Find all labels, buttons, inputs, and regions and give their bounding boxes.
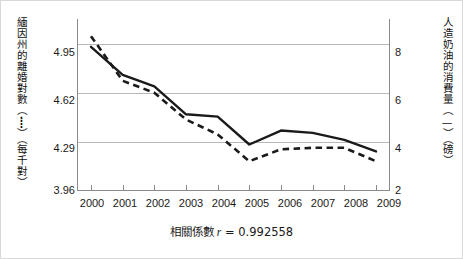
right-axis-title: 人造奶油的消費量（—）（磅） <box>441 17 453 237</box>
x-tick-2000: 2000 <box>80 197 104 209</box>
x-tick-2006: 2006 <box>278 197 302 209</box>
correlation-caption: 相關係數r = 0.992558 <box>1 223 462 239</box>
caption-r-symbol: r <box>217 226 221 238</box>
chart-figure: 緬因州的離婚對數（┋）（每千對） 人造奶油的消費量（—）（磅） 4.95 4.6… <box>0 0 463 259</box>
left-tick-1: 4.62 <box>54 94 75 106</box>
plot-area <box>77 19 390 191</box>
x-tick-2005: 2005 <box>245 197 269 209</box>
left-tick-3: 3.96 <box>54 184 75 196</box>
caption-label: 相關係數 <box>170 225 214 239</box>
x-tick-2004: 2004 <box>212 197 236 209</box>
x-tick-marks <box>92 185 377 191</box>
chart-svg <box>77 19 390 191</box>
left-tick-2: 4.29 <box>54 142 75 154</box>
caption-equals: = <box>225 225 235 239</box>
x-tick-2009: 2009 <box>377 197 401 209</box>
right-tick-1: 6 <box>395 94 401 106</box>
gridlines <box>77 45 390 143</box>
left-tick-0: 4.95 <box>54 46 75 58</box>
x-tick-2007: 2007 <box>311 197 335 209</box>
caption-value: 0.992558 <box>238 225 293 239</box>
x-tick-2002: 2002 <box>146 197 170 209</box>
x-tick-2001: 2001 <box>113 197 137 209</box>
x-tick-2003: 2003 <box>179 197 203 209</box>
right-tick-2: 4 <box>395 142 401 154</box>
left-axis-title: 緬因州的離婚對數（┋）（每千對） <box>15 17 27 237</box>
right-tick-0: 8 <box>395 46 401 58</box>
series-line-margarine <box>91 47 376 152</box>
x-tick-2008: 2008 <box>344 197 368 209</box>
right-tick-3: 2 <box>395 184 401 196</box>
